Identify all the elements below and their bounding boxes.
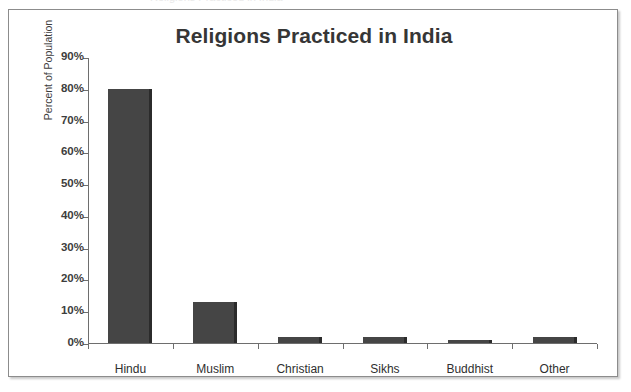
x-tick-mark (258, 344, 259, 349)
bar-buddhist (448, 340, 492, 343)
y-tick-label: 0% (67, 336, 84, 348)
y-tick-label: 10% (61, 304, 84, 316)
x-label-other: Other (495, 362, 615, 376)
plot-area: 0%10%20%30%40%50%60%70%80%90% (88, 58, 597, 344)
chart-container: Religions Practiced in India Percent of … (8, 9, 618, 377)
y-tick-label: 60% (61, 145, 84, 157)
y-tick-label: 70% (61, 114, 84, 126)
clipped-header-text: Religions Practiced in India (150, 0, 283, 3)
y-tick-label: 40% (61, 209, 84, 221)
y-axis-title: Percent of Population (42, 0, 54, 150)
y-tick-label: 50% (61, 177, 84, 189)
x-tick-mark (427, 344, 428, 349)
y-tick-label: 30% (61, 241, 84, 253)
y-tick-label: 80% (61, 82, 84, 94)
x-tick-mark (512, 344, 513, 349)
x-tick-mark (597, 344, 598, 349)
x-tick-mark (88, 344, 89, 349)
chart-title: Religions Practiced in India (9, 24, 619, 48)
bar-christian (278, 337, 322, 343)
bar-muslim (193, 302, 237, 343)
y-tick-label: 20% (61, 272, 84, 284)
clipped-header-strip: Religions Practiced in India (0, 0, 631, 8)
bar-other (533, 337, 577, 343)
bar-hindu (108, 89, 152, 343)
bar-sikhs (363, 337, 407, 343)
x-tick-mark (173, 344, 174, 349)
y-axis-line (88, 58, 89, 345)
y-tick-label: 90% (61, 50, 84, 62)
x-tick-mark (343, 344, 344, 349)
